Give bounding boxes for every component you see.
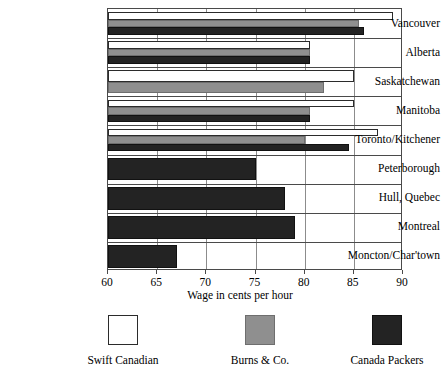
category-separator <box>108 96 401 97</box>
legend-label: Swift Canadian <box>63 354 183 366</box>
bar-burns <box>108 20 359 28</box>
x-tick-mark <box>304 270 305 274</box>
category-separator <box>108 38 401 39</box>
bar-burns <box>108 82 324 93</box>
category-label: Hull, Quebec <box>337 191 440 203</box>
category-label: Toronto/Kitchener <box>337 133 440 145</box>
x-tick-label: 60 <box>92 276 122 289</box>
legend-item[interactable]: Canada Packers <box>327 315 445 366</box>
x-tick-label: 70 <box>190 276 220 289</box>
x-axis-title-text: Wage in cents per hour <box>187 289 293 301</box>
category-label: Saskatchewan <box>337 75 440 87</box>
bar-packers <box>108 245 177 268</box>
bar-burns <box>108 49 310 57</box>
legend-label: Burns & Co. <box>200 354 320 366</box>
x-tick-label: 75 <box>240 276 270 289</box>
category-label: Manitoba <box>337 104 440 116</box>
x-tick-mark <box>255 270 256 274</box>
bar-swift <box>108 70 354 81</box>
category-separator <box>108 242 401 243</box>
category-label: Alberta <box>337 46 440 58</box>
bar-packers <box>108 115 310 123</box>
category-label: Moncton/Char'town <box>337 249 440 261</box>
x-tick-label: 80 <box>289 276 319 289</box>
category-separator <box>108 67 401 68</box>
x-tick-mark <box>107 270 108 274</box>
legend-swatch-packers <box>372 315 402 345</box>
bar-swift <box>108 41 310 49</box>
x-tick-mark <box>353 270 354 274</box>
x-tick-label: 65 <box>141 276 171 289</box>
category-label: Vancouver <box>337 17 440 29</box>
chart-legend: Swift CanadianBurns & Co.Canada Packers <box>0 315 440 373</box>
category-separator <box>108 125 401 126</box>
bar-swift <box>108 100 354 108</box>
x-tick-mark <box>156 270 157 274</box>
category-label: Montreal <box>337 220 440 232</box>
x-tick-mark <box>402 270 403 274</box>
bar-packers <box>108 187 285 210</box>
x-tick-label: 85 <box>338 276 368 289</box>
bar-packers <box>108 216 295 239</box>
category-separator <box>108 155 401 156</box>
category-label: Peterborough <box>337 162 440 174</box>
bar-packers <box>108 56 310 64</box>
legend-item[interactable]: Swift Canadian <box>63 315 183 366</box>
legend-item[interactable]: Burns & Co. <box>200 315 320 366</box>
legend-swatch-burns <box>245 315 275 345</box>
bar-burns <box>108 136 305 144</box>
x-tick-label: 90 <box>387 276 417 289</box>
legend-label: Canada Packers <box>327 354 445 366</box>
bar-packers <box>108 27 364 35</box>
bar-packers <box>108 158 256 181</box>
x-axis-title: Wage in cents per hour <box>0 289 440 301</box>
x-tick-mark <box>205 270 206 274</box>
category-separator <box>108 184 401 185</box>
bar-packers <box>108 144 349 152</box>
legend-swatch-swift <box>108 315 138 345</box>
category-separator <box>108 213 401 214</box>
bar-burns <box>108 107 310 115</box>
